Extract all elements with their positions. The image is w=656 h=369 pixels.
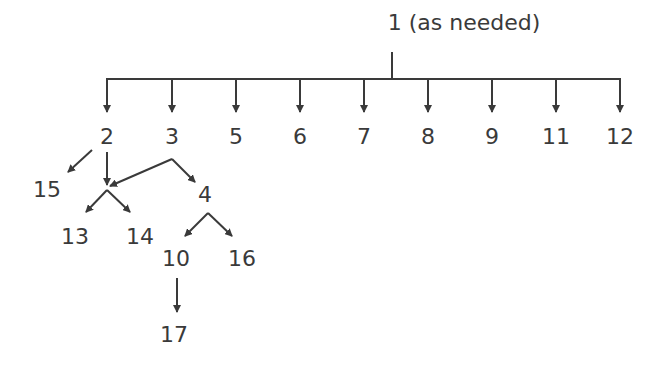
edge-join-to-14: [107, 190, 130, 212]
node-14: 14: [126, 224, 154, 249]
edge-4-to-16: [208, 213, 232, 236]
node-13: 13: [61, 224, 89, 249]
node-16: 16: [228, 246, 256, 271]
top-level-arrows: [107, 79, 620, 112]
node-6: 6: [293, 124, 307, 149]
edge-join-to-13: [86, 190, 107, 212]
edge-2-to-15: [68, 150, 92, 172]
node-2: 2: [100, 124, 114, 149]
node-3: 3: [165, 124, 179, 149]
edge-4-to-10: [185, 213, 208, 236]
edge-3-to-join: [110, 159, 172, 186]
trunk-connector: [106, 52, 621, 80]
node-4: 4: [198, 182, 212, 207]
node-8: 8: [421, 124, 435, 149]
node-12: 12: [606, 124, 634, 149]
edge-3-to-4: [172, 159, 195, 182]
root-node-label: 1 (as needed): [388, 10, 541, 35]
node-11: 11: [542, 124, 570, 149]
sub-nodes: 1541314101617: [33, 177, 256, 347]
node-7: 7: [357, 124, 371, 149]
node-5: 5: [229, 124, 243, 149]
node-15: 15: [33, 177, 61, 202]
node-17: 17: [160, 322, 188, 347]
node-10: 10: [162, 246, 190, 271]
top-level-nodes: 23567891112: [100, 124, 634, 149]
node-9: 9: [485, 124, 499, 149]
dependency-tree-diagram: 1 (as needed) 23567891112 1541314101617: [0, 0, 656, 369]
